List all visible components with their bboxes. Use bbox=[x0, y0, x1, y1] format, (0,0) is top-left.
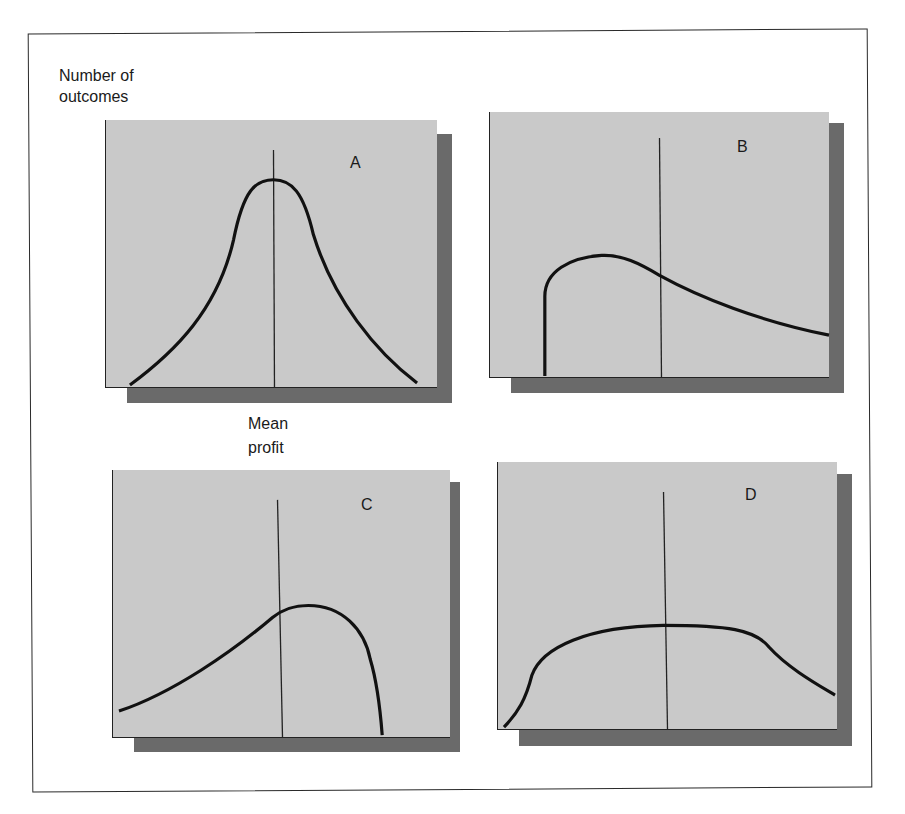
panel-a-curve bbox=[106, 120, 437, 387]
panel-b-label: B bbox=[737, 138, 748, 156]
panel-a-plot: A bbox=[105, 120, 437, 388]
y-axis-label-line1: Number of bbox=[59, 65, 134, 86]
panel-c-curve bbox=[113, 470, 450, 737]
mean-profit-label: Mean profit bbox=[248, 412, 288, 460]
mean-label-line1: Mean bbox=[248, 412, 288, 436]
y-axis-label-line2: outcomes bbox=[59, 86, 134, 107]
panel-d-plot: D bbox=[497, 462, 837, 730]
y-axis-label: Number of outcomes bbox=[59, 65, 134, 107]
mean-label-line2: profit bbox=[248, 436, 288, 460]
panel-d-label: D bbox=[745, 486, 757, 504]
panel-b-curve bbox=[490, 112, 829, 377]
panel-a-label: A bbox=[350, 154, 361, 172]
panel-c-label: C bbox=[361, 496, 373, 514]
panel-d-curve bbox=[498, 462, 837, 729]
panel-b-plot: B bbox=[489, 112, 829, 378]
panel-c-plot: C bbox=[112, 470, 450, 738]
